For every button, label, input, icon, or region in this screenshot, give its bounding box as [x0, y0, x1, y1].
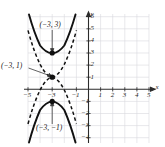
y-tick-label-5: 5: [91, 25, 95, 32]
y-tick-label-neg4: −4: [81, 134, 89, 141]
x-tick-label-neg3: −3: [47, 92, 55, 99]
y-tick-label-neg3: −3: [81, 122, 89, 129]
y-tick-label-1: 1: [91, 74, 95, 81]
y-tick-label-neg2: −2: [81, 110, 89, 117]
x-tick-label-2: 2: [111, 92, 115, 99]
annotation-upper-vertex: (−3, 3): [40, 21, 61, 29]
point-marker-lower-vertex: [50, 99, 55, 104]
x-tick-label-neg1: −1: [71, 92, 79, 99]
point-marker-upper-vertex: [50, 50, 55, 55]
annotation-lower-vertex: (−3, −1): [36, 124, 62, 132]
x-tick-label-neg5: −5: [23, 92, 31, 99]
x-tick-label-1: 1: [99, 92, 103, 99]
graph-figure: y x −5 −3 −1 1 2 3 4 5 6 5 4 3 2 1 −1 −2…: [0, 0, 165, 147]
point-marker-crossing: [50, 75, 55, 80]
annotation-crossing-point: (−3, 1): [1, 62, 22, 70]
x-axis-arrow: [151, 87, 156, 91]
y-tick-label-6: 6: [91, 13, 95, 20]
y-tick-label-3: 3: [91, 49, 95, 56]
x-tick-label-4: 4: [135, 92, 139, 99]
x-tick-label-5: 5: [147, 92, 151, 99]
y-tick-label-4: 4: [91, 37, 95, 44]
y-tick-label-2: 2: [91, 61, 95, 68]
x-tick-label-3: 3: [123, 92, 127, 99]
x-axis-label: x: [156, 84, 159, 91]
y-tick-label-neg1: −1: [81, 98, 89, 105]
